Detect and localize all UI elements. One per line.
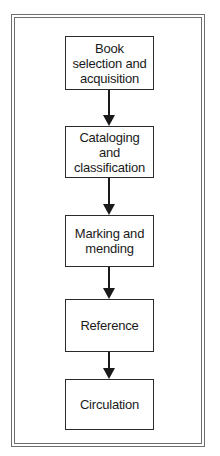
arrowhead-down-icon — [103, 368, 115, 379]
node-circulation: Circulation — [65, 379, 154, 430]
node-label: Marking and mending — [75, 226, 144, 256]
node-cataloging-classification: Cataloging and classification — [65, 126, 154, 178]
node-label: Book selection and acquisition — [72, 41, 146, 86]
arrowhead-down-icon — [103, 204, 115, 215]
arrow-shaft — [108, 90, 110, 116]
arrow-shaft — [108, 352, 110, 369]
node-marking-mending: Marking and mending — [65, 215, 154, 267]
node-label: Cataloging and classification — [74, 130, 145, 175]
arrowhead-down-icon — [103, 115, 115, 126]
node-label: Circulation — [80, 397, 139, 412]
node-label: Reference — [80, 318, 138, 333]
arrow-shaft — [108, 267, 110, 289]
arrowhead-down-icon — [103, 288, 115, 299]
node-reference: Reference — [65, 299, 154, 352]
arrow-shaft — [108, 178, 110, 205]
node-book-selection-acquisition: Book selection and acquisition — [65, 36, 154, 90]
